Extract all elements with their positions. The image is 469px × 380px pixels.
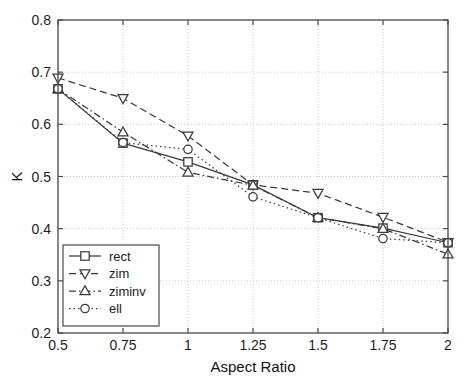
marker-ell (379, 234, 387, 242)
marker-ziminv (183, 167, 193, 176)
y-tick-label: 0.4 (32, 221, 52, 237)
marker-ell (184, 145, 192, 153)
legend-marker-rect (81, 252, 89, 260)
x-tick-label: 2 (444, 337, 452, 353)
y-tick-label: 0.3 (32, 273, 52, 289)
x-tick-label: 1.5 (308, 337, 328, 353)
y-tick-label: 0.7 (32, 64, 52, 80)
marker-ell (119, 138, 127, 146)
y-tick-label: 0.2 (32, 325, 52, 341)
chart-figure: 0.50.7511.251.51.752 0.20.30.40.50.60.70… (0, 0, 469, 380)
marker-zim (313, 189, 323, 198)
legend-item-label: ell (109, 301, 122, 316)
marker-zim (378, 213, 388, 222)
x-tick-label: 1.25 (239, 337, 266, 353)
x-tick-label: 0.5 (48, 337, 68, 353)
y-tick-label: 0.6 (32, 116, 52, 132)
x-tick-labels: 0.50.7511.251.51.752 (48, 337, 452, 353)
marker-zim (118, 95, 128, 104)
legend-marker-ell (81, 304, 89, 312)
x-tick-label: 1.75 (369, 337, 396, 353)
marker-ell (314, 214, 322, 222)
line-chart: 0.50.7511.251.51.752 0.20.30.40.50.60.70… (0, 0, 469, 380)
y-axis-title: K (8, 171, 25, 181)
legend-item-label: ziminv (109, 284, 146, 299)
y-tick-label: 0.8 (32, 12, 52, 28)
y-tick-labels: 0.20.30.40.50.60.70.8 (32, 12, 52, 341)
chart-legend: rectzimziminvell (63, 245, 159, 326)
marker-rect (184, 158, 192, 166)
marker-ell (249, 193, 257, 201)
marker-ziminv (118, 127, 128, 136)
series-line-zim (58, 78, 448, 242)
legend-item-label: rect (109, 249, 131, 264)
x-tick-label: 0.75 (109, 337, 136, 353)
y-tick-label: 0.5 (32, 169, 52, 185)
x-tick-label: 1 (184, 337, 192, 353)
x-axis-title: Aspect Ratio (210, 358, 295, 375)
marker-zim (183, 132, 193, 141)
legend-item-label: zim (109, 266, 129, 281)
